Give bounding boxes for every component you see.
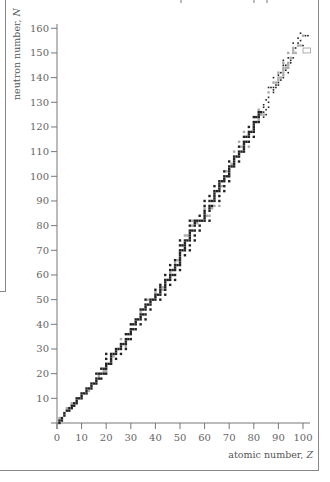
- nuclide-point: [184, 249, 186, 251]
- nuclide-point: [228, 168, 230, 170]
- nuclide-point: [258, 111, 260, 113]
- nuclide-point: [169, 279, 171, 281]
- nuclide-point: [58, 422, 60, 424]
- nuclide-point: [248, 141, 250, 143]
- nuclide-chart: 102030405060708090100110120130140150160 …: [0, 0, 330, 482]
- nuclide-point: [253, 128, 255, 130]
- x-ticks: 0102030405060708090100: [54, 423, 313, 443]
- nuclide-point: [162, 286, 164, 288]
- nuclide-point: [268, 101, 270, 103]
- nuclide-point: [154, 296, 156, 298]
- nuclide-point: [149, 308, 151, 310]
- nuclide-point: [258, 116, 260, 118]
- nuclide-point: [100, 377, 102, 379]
- nuclide-point: [127, 333, 129, 335]
- nuclide-point: [139, 313, 141, 315]
- nuclide-point: [98, 377, 100, 379]
- nuclide-point: [218, 183, 220, 185]
- nuclide-point: [258, 108, 260, 110]
- nuclide-point: [189, 244, 191, 246]
- nuclide-point: [100, 372, 102, 374]
- nuclide-point: [85, 390, 87, 392]
- nuclide-point: [174, 264, 176, 266]
- data-points: [58, 32, 308, 424]
- nuclide-point: [115, 348, 117, 350]
- nuclide-point: [184, 244, 186, 246]
- nuclide-point: [243, 141, 245, 143]
- nuclide-point: [162, 289, 164, 291]
- nuclide-point: [75, 397, 77, 399]
- nuclide-point: [233, 150, 235, 152]
- nuclide-point: [201, 220, 203, 222]
- nuclide-point: [223, 190, 225, 192]
- nuclide-point: [110, 363, 112, 365]
- x-tick-label: 60: [198, 432, 211, 443]
- nuclide-point: [88, 390, 90, 392]
- nuclide-point: [189, 224, 191, 226]
- nuclide-point: [147, 298, 149, 300]
- nuclide-point: [85, 387, 87, 389]
- nuclide-point: [208, 220, 210, 222]
- nuclide-point: [93, 382, 95, 384]
- nuclide-point: [253, 126, 255, 128]
- nuclide-point: [300, 32, 302, 34]
- nuclide-point: [243, 148, 245, 150]
- nuclide-point: [273, 77, 275, 79]
- nuclide-point: [88, 387, 90, 389]
- nuclide-point: [169, 276, 171, 278]
- nuclide-point: [260, 113, 262, 115]
- nuclide-point: [203, 205, 205, 207]
- nuclide-point: [208, 210, 210, 212]
- nuclide-point: [83, 392, 85, 394]
- nuclide-point: [267, 91, 269, 93]
- nuclide-point: [213, 190, 215, 192]
- nuclide-point: [78, 397, 80, 399]
- nuclide-point: [216, 190, 218, 192]
- nuclide-point: [248, 136, 250, 138]
- nuclide-point: [282, 62, 284, 64]
- y-tick-label: 60: [36, 269, 49, 280]
- nuclide-point: [248, 145, 250, 147]
- nuclide-point: [115, 358, 117, 360]
- nuclide-point: [223, 178, 225, 180]
- nuclide-point: [297, 37, 299, 39]
- annotations: [303, 48, 310, 53]
- nuclide-point: [71, 402, 73, 404]
- nuclide-point: [144, 308, 146, 310]
- nuclide-point: [73, 402, 75, 404]
- nuclide-point: [80, 392, 82, 394]
- nuclide-point: [213, 192, 215, 194]
- nuclide-point: [283, 60, 285, 62]
- nuclide-point: [211, 207, 213, 209]
- nuclide-point: [248, 133, 250, 135]
- nuclide-point: [63, 414, 65, 416]
- nuclide-point: [135, 321, 137, 323]
- nuclide-point: [179, 259, 181, 261]
- nuclide-point: [213, 205, 215, 207]
- nuclide-point: [280, 72, 282, 74]
- nuclide-point: [169, 269, 171, 271]
- nuclide-point: [290, 62, 292, 64]
- x-tick-label: 80: [247, 432, 260, 443]
- nuclide-point: [154, 291, 156, 293]
- nuclide-point: [287, 67, 289, 69]
- nuclide-point: [233, 160, 235, 162]
- x-tick-label: 10: [75, 432, 88, 443]
- nuclide-point: [73, 405, 75, 407]
- nuclide-point: [255, 121, 257, 123]
- nuclide-point: [233, 158, 235, 160]
- nuclide-point: [240, 150, 242, 152]
- nuclide-point: [110, 353, 112, 355]
- nuclide-point: [100, 368, 102, 370]
- nuclide-point: [223, 170, 225, 172]
- nuclide-point: [105, 363, 107, 365]
- nuclide-point: [194, 239, 196, 241]
- nuclide-point: [184, 242, 186, 244]
- nuclide-point: [211, 200, 213, 202]
- nuclide-point: [169, 274, 171, 276]
- nuclide-point: [294, 52, 296, 54]
- nuclide-point: [218, 190, 220, 192]
- y-tick-label: 50: [36, 294, 49, 305]
- nuclide-point: [184, 239, 186, 241]
- nuclide-point: [125, 333, 127, 335]
